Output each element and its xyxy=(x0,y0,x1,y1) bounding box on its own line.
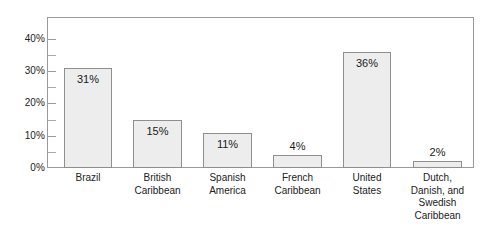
bar-group-british-caribbean: 15% xyxy=(133,17,182,168)
x-axis-label-french-caribbean: French Caribbean xyxy=(259,172,336,197)
bar-group-french-caribbean: 4% xyxy=(273,17,322,168)
bar-label-united-states: 36% xyxy=(343,58,391,69)
bar-label-brazil: 31% xyxy=(64,74,112,85)
bars-container: 31% 15% 11% 4% 36% 2% xyxy=(47,17,474,168)
y-axis-label-20: 20% xyxy=(25,98,45,108)
bar-label-dutch-danish-swedish-caribbean: 2% xyxy=(413,147,462,158)
bar-group-dutch-danish-swedish-caribbean: 2% xyxy=(413,17,462,168)
y-axis-label-10: 10% xyxy=(25,131,45,141)
bar-united-states[interactable] xyxy=(343,52,391,168)
x-axis-label-united-states: United States xyxy=(329,172,405,197)
bar-group-united-states: 36% xyxy=(343,17,391,168)
bar-label-spanish-america: 11% xyxy=(203,139,252,150)
y-axis-label-0: 0% xyxy=(30,163,45,173)
x-axis-label-british-caribbean: British Caribbean xyxy=(119,172,196,197)
bar-dutch-danish-swedish-caribbean[interactable] xyxy=(413,161,462,168)
x-axis-label-brazil: Brazil xyxy=(50,172,126,185)
y-axis-label-30: 30% xyxy=(25,66,45,76)
bar-label-british-caribbean: 15% xyxy=(133,126,182,137)
x-axis-label-spanish-america: Spanish America xyxy=(189,172,266,197)
bar-group-spanish-america: 11% xyxy=(203,17,252,168)
bar-french-caribbean[interactable] xyxy=(273,155,322,168)
x-axis-label-dutch-danish-swedish-caribbean: Dutch, Danish, and Swedish Caribbean xyxy=(398,172,477,222)
bar-chart: 40% 30% 20% 10% 0% 31% 15% 11% xyxy=(0,0,491,229)
bar-group-brazil: 31% xyxy=(64,17,112,168)
x-axis-labels: Brazil British Caribbean Spanish America… xyxy=(47,172,474,229)
bar-label-french-caribbean: 4% xyxy=(273,141,322,152)
y-axis-label-40: 40% xyxy=(25,34,45,44)
